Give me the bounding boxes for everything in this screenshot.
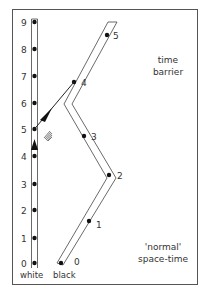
- white-tick-labels: 9 8 7 6 5 4 3 2 1 0: [21, 18, 27, 269]
- black-tick-5: 5: [113, 31, 119, 41]
- white-tick-2: 2: [21, 206, 27, 216]
- black-label: black: [53, 270, 76, 280]
- black-tick-2: 2: [117, 171, 123, 181]
- black-dot-5: [105, 33, 109, 37]
- time-barrier-label-line1: time: [158, 55, 179, 65]
- white-tick-3: 3: [21, 180, 27, 190]
- white-dot-2: [32, 208, 36, 212]
- black-tick-4: 4: [81, 78, 87, 88]
- black-tick-3: 3: [91, 132, 97, 142]
- hatched-mark-icon: [44, 131, 52, 141]
- white-dot-7: [32, 74, 36, 78]
- white-dot-6: [32, 101, 36, 105]
- black-worldline-dots: [59, 33, 111, 265]
- white-tick-7: 7: [21, 72, 27, 82]
- black-dot-1: [87, 219, 91, 223]
- arrowhead-up-icon: [31, 139, 38, 150]
- white-dot-8: [32, 47, 36, 51]
- arrowhead-diagonal-icon-fill: [40, 108, 52, 122]
- black-dot-3: [82, 134, 86, 138]
- white-tick-8: 8: [21, 45, 27, 55]
- white-dot-0: [32, 261, 36, 265]
- signal-arrow: [35, 82, 75, 129]
- white-tick-5: 5: [21, 125, 27, 135]
- normal-label-line1: 'normal': [145, 242, 181, 252]
- white-dot-1: [32, 236, 36, 240]
- normal-label-line2: space-time: [138, 254, 188, 264]
- black-tick-0: 0: [74, 257, 80, 267]
- white-tick-1: 1: [21, 234, 27, 244]
- white-tick-6: 6: [21, 99, 27, 109]
- white-tick-9: 9: [21, 18, 27, 28]
- white-tick-4: 4: [21, 152, 27, 162]
- black-worldline: [57, 22, 117, 265]
- time-barrier-label-line2: barrier: [153, 67, 184, 77]
- black-dot-2: [107, 173, 111, 177]
- white-dot-3: [32, 182, 36, 186]
- white-dot-9: [32, 20, 36, 24]
- time-travel-diagram: 9 8 7 6 5 4 3 2 1 0 0 1 2 3 4 5: [0, 0, 207, 294]
- white-label: white: [20, 270, 43, 280]
- white-tick-0: 0: [21, 259, 27, 269]
- black-dot-0: [59, 261, 63, 265]
- white-dot-4: [32, 154, 36, 158]
- black-tick-1: 1: [96, 220, 102, 230]
